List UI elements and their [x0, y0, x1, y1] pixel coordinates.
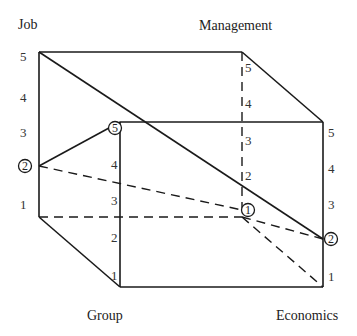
management-tick-4: 4 — [245, 96, 252, 111]
job2-to-management1-line — [39, 166, 242, 210]
management-axis-label: Management — [199, 18, 272, 33]
job-axis-label: Job — [18, 17, 37, 32]
group-tick-4: 4 — [111, 157, 118, 172]
job-axis-ticks: 5 4 3 1 — [20, 49, 27, 212]
job-marker-value: 2 — [22, 159, 28, 173]
cube-edges — [39, 52, 323, 287]
bottom-left-diagonal-edge — [39, 217, 120, 287]
management-marker: 1 — [242, 203, 255, 217]
job-tick-5: 5 — [20, 49, 27, 64]
cube-diagram: 5 4 3 1 4 3 2 1 5 4 3 2 5 4 3 1 2 5 1 2 — [0, 0, 357, 336]
management-tick-3: 3 — [245, 133, 252, 148]
top-right-diagonal-edge — [242, 52, 323, 122]
economics-tick-5: 5 — [328, 125, 335, 140]
economics-tick-4: 4 — [328, 161, 335, 176]
group-tick-3: 3 — [111, 193, 118, 208]
group-tick-2: 2 — [111, 230, 118, 245]
profile-lines — [39, 52, 323, 239]
job2-to-group5-line — [39, 122, 120, 166]
economics-tick-1: 1 — [328, 269, 335, 284]
job-to-group-line — [39, 52, 323, 239]
management-tick-2: 2 — [245, 168, 252, 183]
job-marker: 2 — [19, 159, 32, 173]
hidden-edges — [39, 52, 323, 287]
group-axis-label: Group — [87, 308, 123, 323]
group-tick-1: 1 — [111, 268, 118, 283]
hidden-diagonal-edge — [242, 217, 323, 287]
economics-marker: 2 — [325, 232, 338, 246]
job-tick-4: 4 — [20, 90, 27, 105]
economics-tick-3: 3 — [328, 197, 335, 212]
economics-axis-label: Economics — [276, 308, 338, 323]
management-marker-value: 1 — [245, 203, 251, 217]
job-tick-1: 1 — [20, 197, 27, 212]
job-tick-3: 3 — [20, 125, 27, 140]
group-axis-ticks: 4 3 2 1 — [111, 157, 118, 283]
management-tick-5: 5 — [245, 60, 252, 75]
economics-marker-value: 2 — [328, 232, 334, 246]
group-marker-value: 5 — [112, 121, 118, 135]
economics-axis-ticks: 5 4 3 1 — [328, 125, 335, 284]
group-marker: 5 — [109, 121, 122, 135]
